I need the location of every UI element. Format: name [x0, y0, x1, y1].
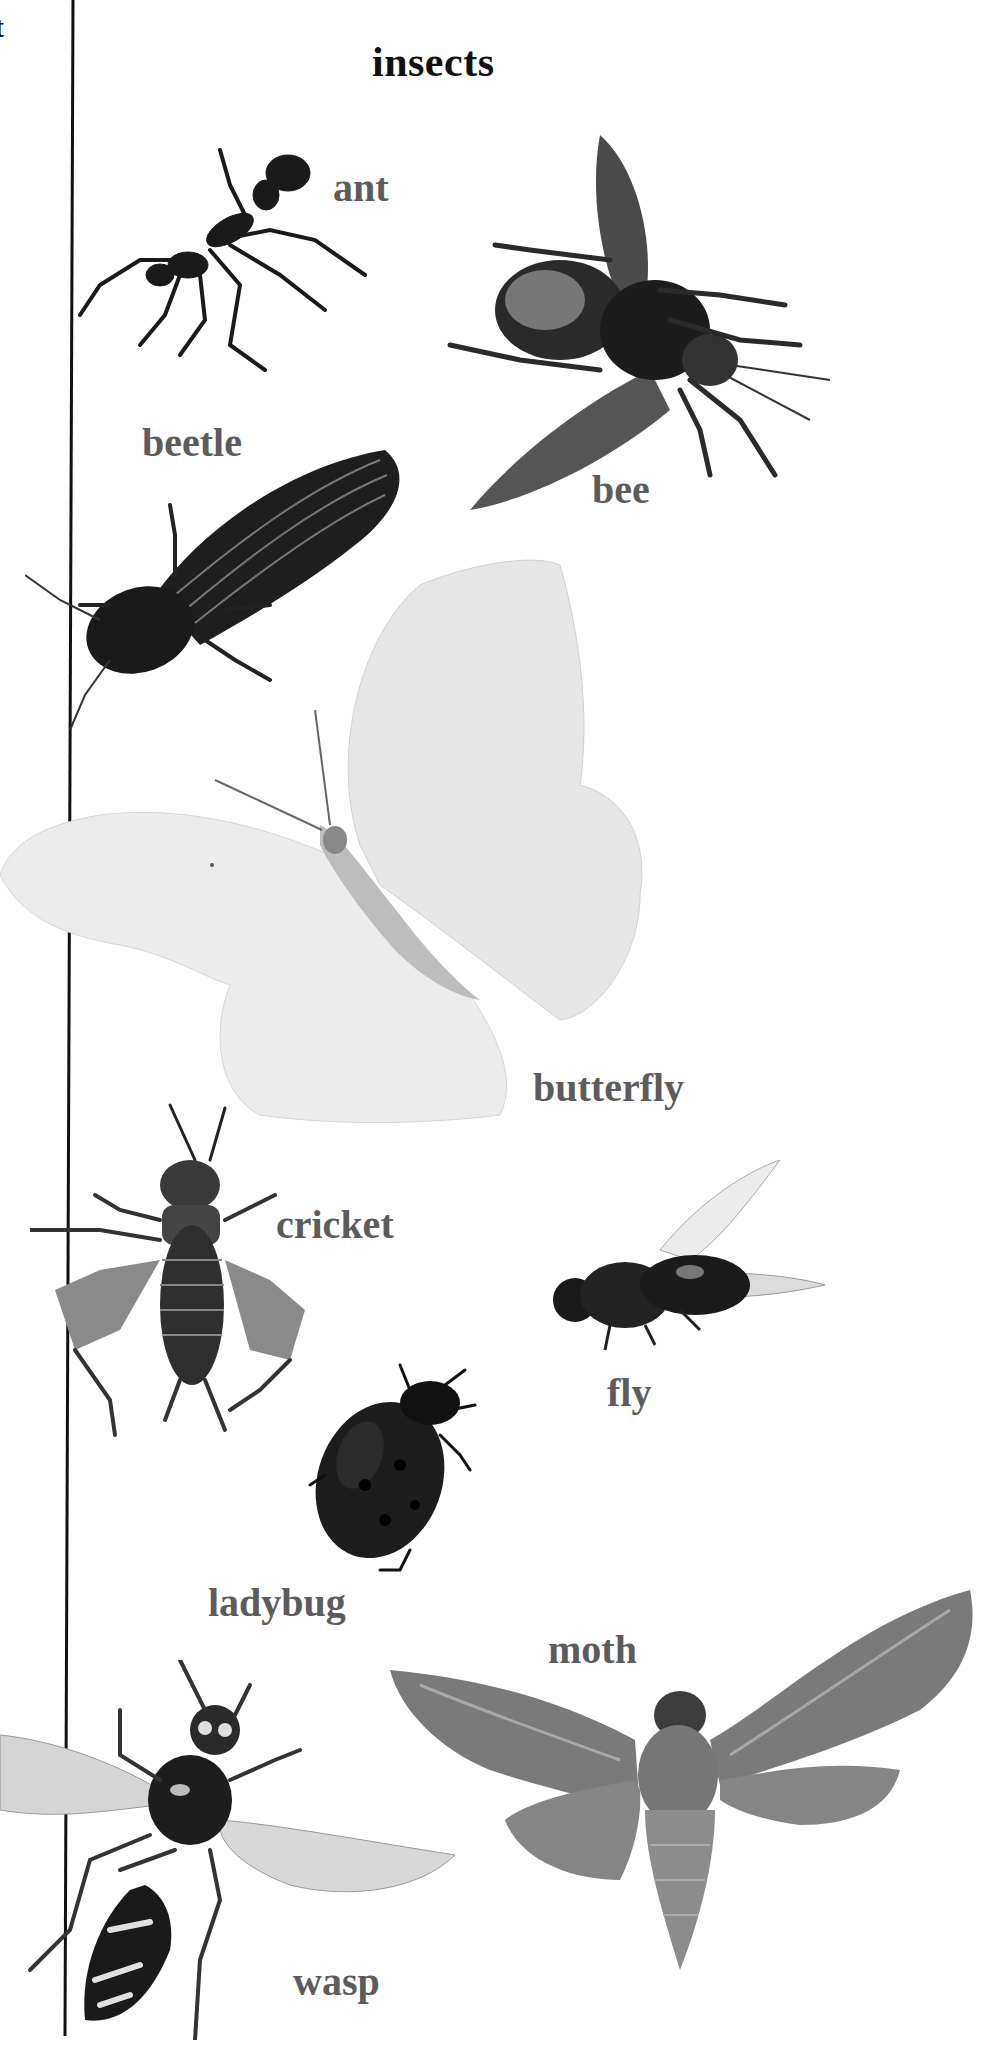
cropped-previous-page-text: t — [0, 10, 4, 44]
fly-image — [550, 1160, 830, 1360]
fly-label: fly — [607, 1373, 651, 1413]
bee-label: bee — [592, 470, 650, 510]
wasp-label: wasp — [293, 1962, 380, 2002]
ladybug-label: ladybug — [208, 1583, 346, 1623]
cricket-image — [30, 1100, 310, 1440]
insects-page: t insects ant — [0, 0, 1005, 2068]
moth-image — [380, 1560, 1000, 1970]
ant-label: ant — [333, 168, 389, 208]
cricket-label: cricket — [276, 1205, 394, 1245]
page-title: insects — [372, 38, 495, 86]
butterfly-image — [0, 555, 650, 1130]
butterfly-label: butterfly — [533, 1068, 684, 1108]
ladybug-image — [290, 1355, 490, 1575]
wasp-image — [0, 1660, 460, 2040]
bee-image — [440, 130, 840, 510]
